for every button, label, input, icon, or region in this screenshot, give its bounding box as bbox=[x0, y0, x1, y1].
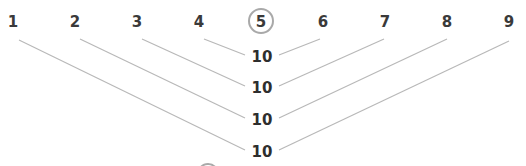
line-7-to-sum bbox=[279, 39, 384, 86]
sum-1-9: 10 bbox=[252, 143, 273, 161]
number-9: 9 bbox=[504, 13, 514, 31]
sum-4-6: 10 bbox=[252, 48, 273, 66]
number-1: 1 bbox=[8, 13, 18, 31]
number-4: 4 bbox=[194, 13, 204, 31]
line-1-to-sum bbox=[19, 40, 245, 150]
number-3: 3 bbox=[132, 13, 142, 31]
number-6: 6 bbox=[318, 13, 328, 31]
line-6-to-sum bbox=[279, 39, 320, 55]
line-2-to-sum bbox=[80, 39, 245, 118]
number-7: 7 bbox=[380, 13, 390, 31]
sum-3-7: 10 bbox=[252, 79, 273, 97]
partial-circle-bottom bbox=[200, 164, 216, 166]
sum-2-8: 10 bbox=[252, 111, 273, 129]
line-8-to-sum bbox=[279, 39, 447, 118]
number-5: 5 bbox=[256, 13, 266, 31]
pair-sum-diagram: 1 2 3 4 5 6 7 8 9 10 10 10 10 bbox=[0, 0, 526, 166]
line-4-to-sum bbox=[204, 39, 245, 55]
number-8: 8 bbox=[442, 13, 452, 31]
number-2: 2 bbox=[70, 13, 80, 31]
line-3-to-sum bbox=[142, 39, 245, 86]
line-9-to-sum bbox=[279, 41, 509, 150]
